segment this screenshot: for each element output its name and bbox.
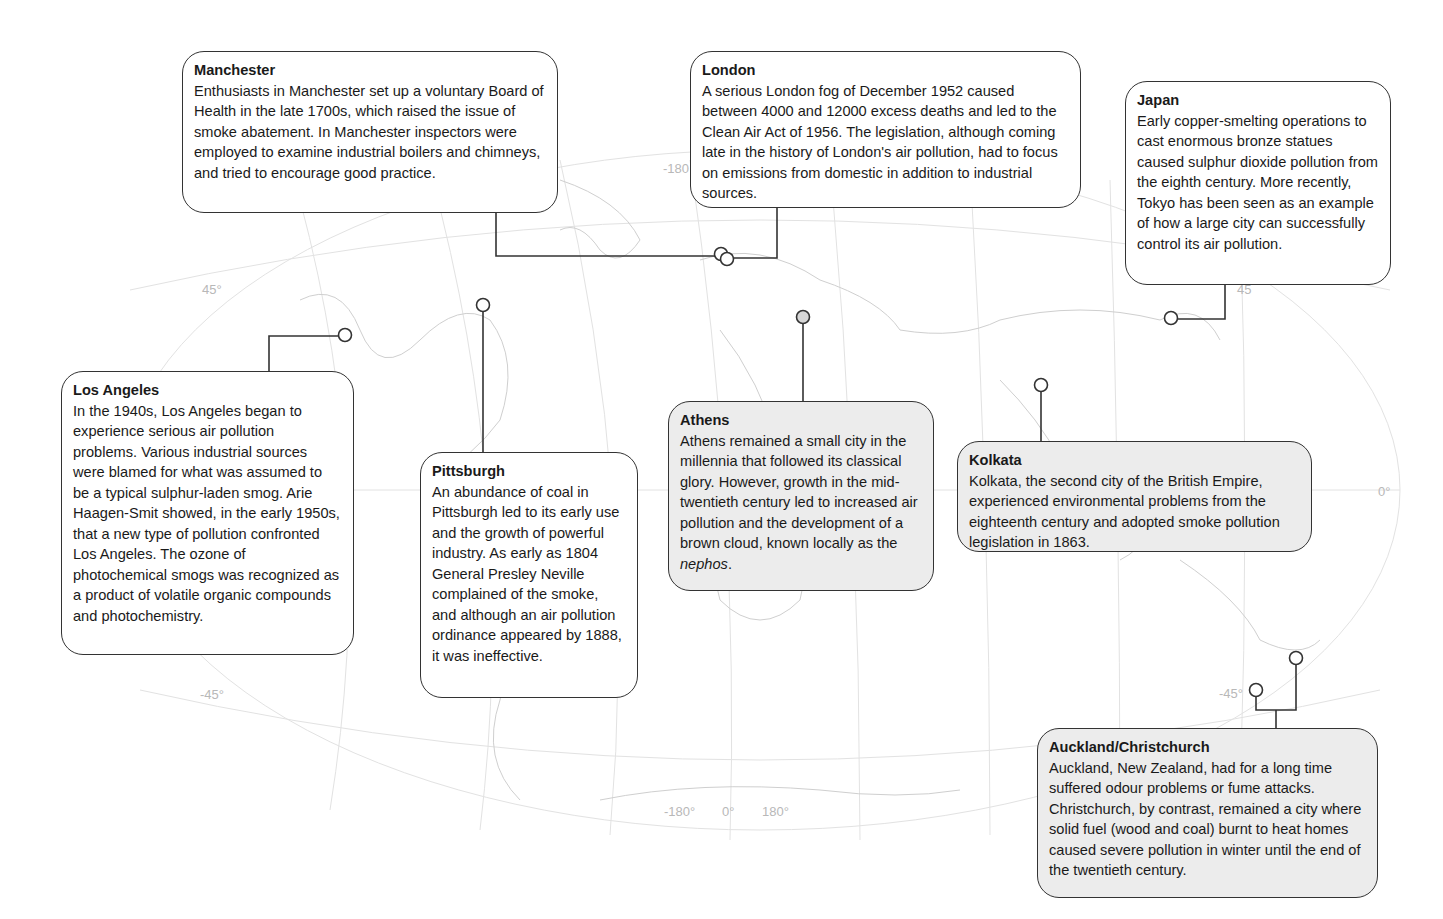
callout-title: Athens: [680, 410, 922, 431]
lat-label-equator: 0°: [1378, 484, 1390, 499]
callout-title: Pittsburgh: [432, 461, 626, 482]
marker-athens[interactable]: [797, 311, 810, 324]
lon-label-center: 0°: [722, 804, 734, 819]
callout-kolkata: Kolkata Kolkata, the second city of the …: [957, 441, 1312, 552]
marker-christchurch[interactable]: [1250, 684, 1263, 697]
callout-body: In the 1940s, Los Angeles began to exper…: [73, 401, 342, 627]
callout-body: A serious London fog of December 1952 ca…: [702, 81, 1069, 204]
lat-label-north: 45°: [202, 282, 222, 297]
lon-label-top: -180: [663, 161, 689, 176]
callout-japan: Japan Early copper-smelting operations t…: [1125, 81, 1391, 285]
callout-los-angeles: Los Angeles In the 1940s, Los Angeles be…: [61, 371, 354, 655]
callout-title: Japan: [1137, 90, 1379, 111]
callout-pittsburgh: Pittsburgh An abundance of coal in Pitts…: [420, 452, 638, 698]
marker-kolkata[interactable]: [1035, 379, 1048, 392]
callout-auckland-christchurch: Auckland/Christchurch Auckland, New Zeal…: [1037, 728, 1378, 898]
lat-label-nz: -45°: [1219, 686, 1243, 701]
callout-body: Auckland, New Zealand, had for a long ti…: [1049, 758, 1366, 881]
lat-label-south: -45°: [200, 687, 224, 702]
callout-body: Enthusiasts in Manchester set up a volun…: [194, 81, 546, 184]
marker-los-angeles[interactable]: [339, 329, 352, 342]
marker-japan[interactable]: [1165, 312, 1178, 325]
marker-london[interactable]: [721, 253, 734, 266]
callout-body: Kolkata, the second city of the British …: [969, 471, 1300, 553]
lon-label-east: 180°: [762, 804, 789, 819]
callout-title: Auckland/Christchurch: [1049, 737, 1366, 758]
marker-pittsburgh[interactable]: [477, 299, 490, 312]
callout-title: Manchester: [194, 60, 546, 81]
callout-body: Early copper-smelting operations to cast…: [1137, 111, 1379, 255]
marker-auckland[interactable]: [1290, 652, 1303, 665]
callout-body: Athens remained a small city in the mill…: [680, 431, 922, 575]
callout-body: An abundance of coal in Pittsburgh led t…: [432, 482, 626, 667]
callout-manchester: Manchester Enthusiasts in Manchester set…: [182, 51, 558, 213]
callout-title: Los Angeles: [73, 380, 342, 401]
nephos-term: nephos: [680, 556, 728, 572]
callout-title: London: [702, 60, 1069, 81]
lon-label-west: -180°: [664, 804, 695, 819]
callout-athens: Athens Athens remained a small city in t…: [668, 401, 934, 591]
callout-london: London A serious London fog of December …: [690, 51, 1081, 208]
callout-title: Kolkata: [969, 450, 1300, 471]
